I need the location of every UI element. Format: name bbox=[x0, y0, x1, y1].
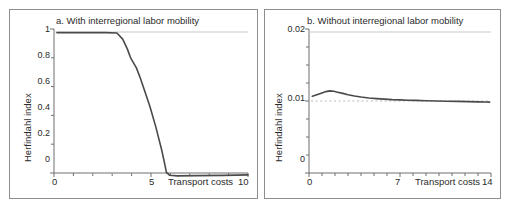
chart-panel-b: b. Without interregional labor mobility … bbox=[264, 9, 501, 199]
panel-b-x-ticks bbox=[309, 173, 491, 177]
panel-b-y-ticks bbox=[305, 29, 309, 173]
panel-a-curve bbox=[57, 33, 248, 176]
panel-a-plot-area bbox=[10, 10, 259, 200]
panel-b-plot-area bbox=[265, 10, 502, 200]
chart-panel-a: a. With interregional labor mobility Her… bbox=[9, 9, 258, 199]
panel-b-curve bbox=[312, 91, 489, 102]
figure-container: a. With interregional labor mobility Her… bbox=[0, 0, 510, 217]
panel-a-y-ticks bbox=[50, 29, 54, 173]
